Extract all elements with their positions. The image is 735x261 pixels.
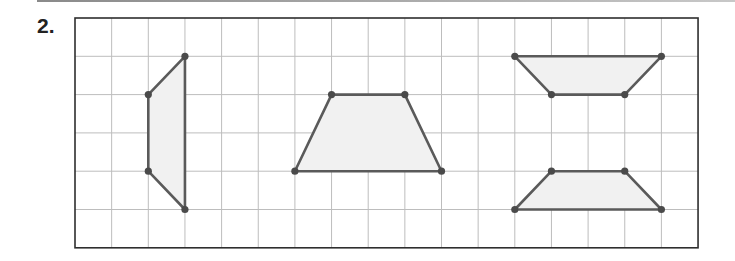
coordinate-grid <box>0 0 735 261</box>
bottom-right-trapezoid <box>515 171 662 209</box>
vertex-dot <box>145 168 152 175</box>
middle-trapezoid <box>295 95 442 172</box>
vertex-dot <box>145 91 152 98</box>
vertex-dot <box>511 53 518 60</box>
vertex-dot <box>291 168 298 175</box>
vertex-dot <box>658 53 665 60</box>
vertex-dot <box>621 168 628 175</box>
vertex-dot <box>658 206 665 213</box>
vertex-dot <box>438 168 445 175</box>
vertex-dot <box>548 91 555 98</box>
left-trapezoid <box>148 56 185 209</box>
vertex-dot <box>181 206 188 213</box>
vertex-dot <box>511 206 518 213</box>
vertex-dot <box>621 91 628 98</box>
vertex-dot <box>401 91 408 98</box>
vertex-dot <box>328 91 335 98</box>
top-right-trapezoid <box>515 56 662 94</box>
vertex-dot <box>548 168 555 175</box>
vertex-dot <box>181 53 188 60</box>
